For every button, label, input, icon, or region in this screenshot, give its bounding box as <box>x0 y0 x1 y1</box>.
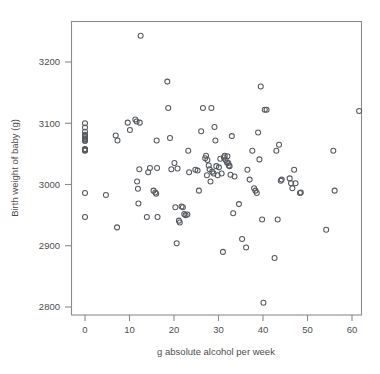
x-tick-label: 50 <box>302 324 313 335</box>
y-tick-label: 2900 <box>39 240 60 251</box>
x-tick-label: 40 <box>258 324 269 335</box>
x-tick-label: 60 <box>347 324 358 335</box>
x-tick-label: 10 <box>124 324 135 335</box>
x-axis-title: g absolute alcohol per week <box>157 346 275 357</box>
x-tick-label: 0 <box>82 324 87 335</box>
y-tick-label: 3100 <box>39 118 60 129</box>
y-tick-label: 3000 <box>39 179 60 190</box>
y-axis-title: Birth weight of baby (g) <box>9 119 20 217</box>
y-tick-label: 2800 <box>39 301 60 312</box>
scatter-plot-figure: 0102030405060 28002900300031003200 g abs… <box>0 0 380 374</box>
y-tick-label: 3200 <box>39 56 60 67</box>
plot-canvas: 0102030405060 28002900300031003200 g abs… <box>0 0 380 374</box>
x-tick-label: 30 <box>213 324 224 335</box>
x-tick-label: 20 <box>169 324 180 335</box>
